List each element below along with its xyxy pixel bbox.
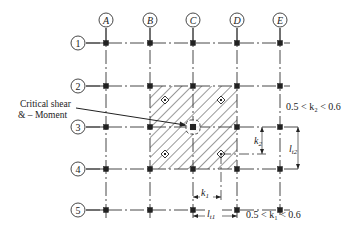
range-k2: 0.5 < k₂ < 0.6 [286, 101, 341, 112]
k2-label: k2 [254, 135, 262, 148]
column-label-e: E [276, 15, 283, 26]
lt2-label: lt2 [289, 143, 298, 156]
range-k1: 0.5 < k₁ < 0.6 [246, 209, 301, 220]
flat-slab-grid-diagram: A B C D E 1 2 3 4 5 [0, 0, 362, 240]
column-label-b: B [147, 15, 153, 26]
column-label-d: D [232, 15, 241, 26]
annotation-line-1: Critical shear [20, 99, 72, 109]
column-label-a: A [102, 15, 110, 26]
row-label-1: 1 [76, 38, 81, 49]
annotation-line-2: & – Moment [18, 110, 67, 120]
column-label-c: C [190, 15, 197, 26]
row-label-3: 3 [76, 122, 81, 133]
row-label-5: 5 [76, 205, 81, 216]
row-label-4: 4 [76, 164, 81, 175]
row-label-2: 2 [76, 81, 81, 92]
